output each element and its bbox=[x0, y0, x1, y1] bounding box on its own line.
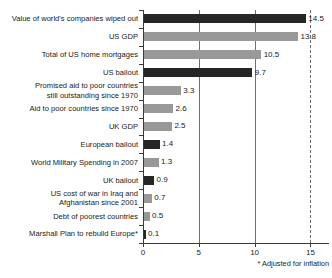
bar bbox=[144, 212, 150, 221]
bar-category-label: Total of US home mortgages bbox=[3, 50, 138, 59]
bar-row: Value of world's companies wiped out14.5 bbox=[0, 10, 332, 28]
bar-value-label: 0.9 bbox=[157, 175, 168, 184]
bar-row: Total of US home mortgages10.5 bbox=[0, 46, 332, 64]
x-tick-label-5: 5 bbox=[197, 248, 201, 257]
bar bbox=[144, 86, 181, 95]
bar bbox=[144, 104, 173, 113]
bar-row: Aid to poor countries since 19702.6 bbox=[0, 100, 332, 118]
bar-category-label: Marshall Plan to rebuild Europe* bbox=[3, 229, 138, 238]
bar-value-label: 9.7 bbox=[255, 68, 266, 77]
bar-value-label: 2.6 bbox=[176, 104, 187, 113]
bar-row: Debt of poorest countries0.5 bbox=[0, 207, 332, 225]
bar-value-label: 3.3 bbox=[183, 86, 194, 95]
bar-row: US bailout9.7 bbox=[0, 64, 332, 82]
bar-category-label: Aid to poor countries since 1970 bbox=[3, 104, 138, 113]
bar-row: US cost of war in Iraq and Afghanistan s… bbox=[0, 189, 332, 207]
bar-row: US GDP13.8 bbox=[0, 28, 332, 46]
x-tick-0 bbox=[143, 243, 144, 247]
bar-value-label: 1.3 bbox=[161, 157, 172, 166]
x-tick-label-15: 15 bbox=[306, 248, 315, 257]
bar bbox=[144, 176, 154, 185]
bar-category-label: US bailout bbox=[3, 68, 138, 77]
x-tick-label-10: 10 bbox=[250, 248, 259, 257]
x-tick-label-0: 0 bbox=[141, 248, 145, 257]
bar-category-label: UK bailout bbox=[3, 176, 138, 185]
x-tick-5 bbox=[199, 243, 200, 247]
bar bbox=[144, 50, 261, 59]
bar-category-label: US cost of war in Iraq and Afghanistan s… bbox=[3, 189, 138, 207]
bar-row: UK bailout0.9 bbox=[0, 171, 332, 189]
bar-category-label: Promised aid to poor countries still out… bbox=[3, 81, 138, 99]
x-tick-10 bbox=[255, 243, 256, 247]
bar-value-label: 10.5 bbox=[264, 50, 280, 59]
bar-value-label: 14.5 bbox=[308, 14, 324, 23]
bar bbox=[144, 14, 306, 23]
bar-category-label: US GDP bbox=[3, 32, 138, 41]
x-tick-15 bbox=[310, 243, 311, 247]
bar-row: World Military Spending in 20071.3 bbox=[0, 153, 332, 171]
bar-value-label: 1.4 bbox=[162, 139, 173, 148]
bar-value-label: 2.5 bbox=[174, 121, 185, 130]
bar-row: Marshall Plan to rebuild Europe*0.1 bbox=[0, 225, 332, 243]
bar-category-label: European bailout bbox=[3, 140, 138, 149]
bar-category-label: Debt of poorest countries bbox=[3, 212, 138, 221]
bar bbox=[144, 122, 172, 131]
bar-value-label: 0.5 bbox=[152, 211, 163, 220]
bar-category-label: Value of world's companies wiped out bbox=[3, 14, 138, 23]
bar-row: European bailout1.4 bbox=[0, 135, 332, 153]
bar bbox=[144, 32, 298, 41]
footnote: * Adjusted for inflation bbox=[258, 259, 330, 268]
bar bbox=[144, 194, 152, 203]
bar bbox=[144, 140, 160, 149]
bar-row: UK GDP2.5 bbox=[0, 118, 332, 136]
bar bbox=[144, 68, 252, 77]
bar bbox=[144, 158, 159, 167]
bar-value-label: 0.7 bbox=[154, 193, 165, 202]
bar bbox=[144, 230, 146, 239]
bar-category-label: World Military Spending in 2007 bbox=[3, 158, 138, 167]
bar-category-label: UK GDP bbox=[3, 122, 138, 131]
bar-chart: 051015 Value of world's companies wiped … bbox=[0, 0, 332, 278]
bar-value-label: 0.1 bbox=[148, 229, 159, 238]
bar-value-label: 13.8 bbox=[301, 32, 317, 41]
bar-row: Promised aid to poor countries still out… bbox=[0, 82, 332, 100]
x-axis-line bbox=[143, 243, 329, 244]
